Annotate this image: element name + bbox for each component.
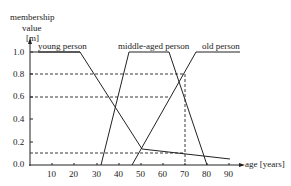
y-axis-arrow-icon <box>28 38 32 44</box>
series-old-person <box>132 52 240 165</box>
plot-area <box>0 0 291 186</box>
x-axis-arrow-icon <box>239 163 245 167</box>
series-middle-aged-person <box>101 52 207 165</box>
series-young-person <box>31 52 230 159</box>
